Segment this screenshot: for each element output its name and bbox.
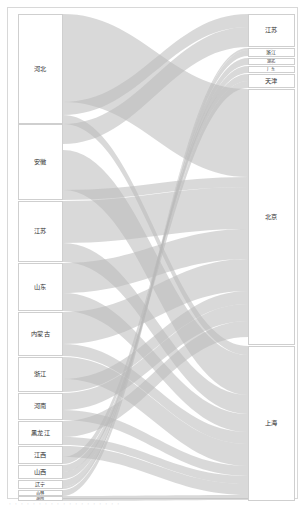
node-label: 江西 xyxy=(34,452,47,458)
node-label: 浙江 xyxy=(266,50,277,55)
sankey-node-source-s_jiangxi[interactable]: 江西 xyxy=(18,446,63,464)
sankey-node-source-s_jiangsu[interactable]: 江苏 xyxy=(18,201,63,262)
sankey-node-target-t_shanghai[interactable]: 上海 xyxy=(248,346,295,501)
sankey-node-target-t_jiangsu[interactable]: 江苏 xyxy=(248,14,295,47)
sankey-node-source-s_anhui[interactable]: 安徽 xyxy=(18,124,63,200)
node-label: 黑龙江 xyxy=(31,430,50,436)
sankey-links xyxy=(63,14,248,501)
node-label: 天津 xyxy=(265,78,278,84)
node-label: 山东 xyxy=(34,284,47,290)
sankey-figure: 河北安徽江苏山东内蒙古浙江河南黑龙江江西山西辽宁吉林湖南江苏浙江湖北广东天津北京… xyxy=(0,0,306,507)
node-label: 内蒙古 xyxy=(31,331,50,337)
node-label: 江苏 xyxy=(265,27,278,33)
node-label: 上海 xyxy=(265,420,278,426)
sankey-node-target-t_zhejiang[interactable]: 浙江 xyxy=(248,48,295,57)
node-label: 安徽 xyxy=(34,159,47,165)
node-label: 北京 xyxy=(265,214,278,220)
sankey-node-target-t_guangdong[interactable]: 广东 xyxy=(248,66,295,73)
sankey-node-source-s_zhejiang[interactable]: 浙江 xyxy=(18,357,63,392)
sankey-node-target-t_beijing[interactable]: 北京 xyxy=(248,89,295,345)
sankey-node-source-s_shandong[interactable]: 山东 xyxy=(18,263,63,311)
sankey-node-source-s_neimenggu[interactable]: 内蒙古 xyxy=(18,312,63,356)
sankey-node-source-s_heilongjiang[interactable]: 黑龙江 xyxy=(18,421,63,445)
node-label: 浙江 xyxy=(34,371,47,377)
node-label: 山西 xyxy=(34,469,47,475)
figure-caption: · · · · · · · · · · · · · · · · · · · xyxy=(9,500,299,507)
sankey-node-target-t_hubei[interactable]: 湖北 xyxy=(248,58,295,65)
node-label: 江苏 xyxy=(34,228,47,234)
sankey-node-source-s_liaoning[interactable]: 辽宁 xyxy=(18,480,63,489)
sankey-node-target-t_tianjin[interactable]: 天津 xyxy=(248,74,295,88)
node-label: 吉林 xyxy=(36,491,45,495)
node-label: 湖北 xyxy=(267,59,276,63)
sankey-node-source-s_henan[interactable]: 河南 xyxy=(18,393,63,420)
node-label: 辽宁 xyxy=(35,482,46,487)
node-label: 河南 xyxy=(34,403,47,409)
sankey-node-source-s_hebei[interactable]: 河北 xyxy=(18,14,63,124)
node-label: 广东 xyxy=(267,67,276,71)
node-label: 河北 xyxy=(34,66,47,72)
sankey-node-source-s_shanxi[interactable]: 山西 xyxy=(18,465,63,479)
